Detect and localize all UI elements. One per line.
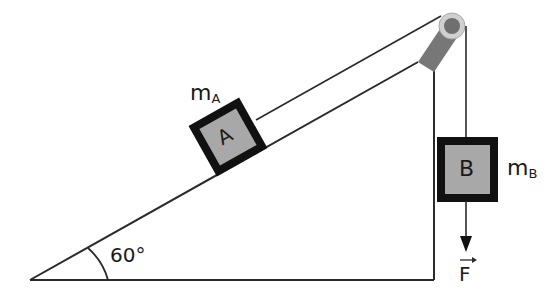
angle-label: 60° bbox=[110, 243, 145, 267]
vector-arrow-head bbox=[472, 257, 477, 263]
incline-triangle bbox=[30, 62, 434, 280]
rope-a bbox=[256, 16, 441, 120]
force-label: F bbox=[459, 262, 471, 286]
block-b-letter: B bbox=[459, 156, 474, 181]
pulley-icon bbox=[439, 13, 465, 39]
mass-b-label: mB bbox=[507, 155, 537, 181]
mass-a-label: mA bbox=[190, 80, 220, 106]
angle-arc bbox=[88, 248, 108, 280]
force-arrow-head bbox=[460, 236, 472, 252]
incline-pulley-diagram bbox=[0, 0, 558, 305]
